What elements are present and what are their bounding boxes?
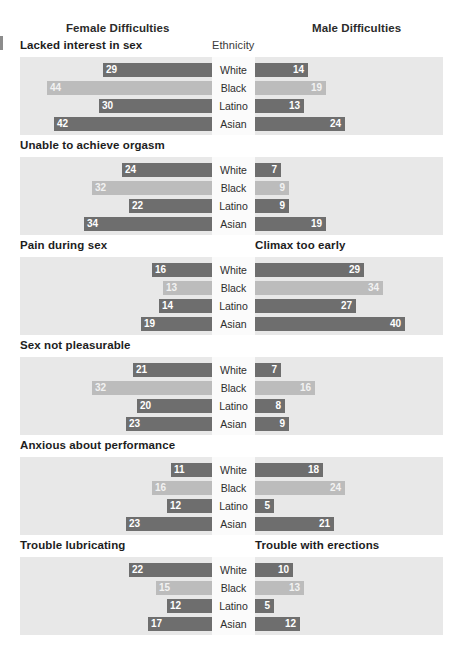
ethnicity-label-black: Black xyxy=(212,181,255,195)
chart-page: Female Difficulties Male Difficulties La… xyxy=(0,0,466,653)
ethnicity-label-black: Black xyxy=(212,81,255,95)
ethnicity-label-latino: Latino xyxy=(212,499,255,513)
bar-value-label: 13 xyxy=(289,99,300,113)
ethnicity-row: White xyxy=(212,563,255,577)
ethnicity-row: Black xyxy=(212,581,255,595)
ethnicity-row: Black xyxy=(212,281,255,295)
ethnicity-row: Asian xyxy=(212,117,255,131)
bar-female: 30 xyxy=(99,99,212,113)
ethnicity-label-asian: Asian xyxy=(212,217,255,231)
ethnicity-row: White xyxy=(212,363,255,377)
bar-female: 23 xyxy=(126,517,212,531)
male-panel: 79919 xyxy=(255,157,443,235)
bar-female: 29 xyxy=(103,63,212,77)
bar-male: 34 xyxy=(255,281,383,295)
male-bar-row: 9 xyxy=(255,181,443,195)
bar-value-label: 22 xyxy=(132,199,143,213)
ethnicity-row: Latino xyxy=(212,199,255,213)
bar-female: 44 xyxy=(47,81,212,95)
ethnicity-row: Latino xyxy=(212,99,255,113)
ethnicity-label-panel: WhiteBlackLatinoAsian xyxy=(212,257,255,335)
bar-value-label: 24 xyxy=(330,117,341,131)
bar-male: 19 xyxy=(255,81,326,95)
ethnicity-row: Black xyxy=(212,381,255,395)
ethnicity-label-asian: Asian xyxy=(212,117,255,131)
male-section-title: Climax too early xyxy=(255,239,345,251)
female-section-title: Sex not pleasurable xyxy=(20,339,131,351)
ethnicity-label-asian: Asian xyxy=(212,517,255,531)
section-titles: Trouble lubricatingTrouble with erection… xyxy=(0,539,466,556)
bar-female: 32 xyxy=(92,381,212,395)
ethnicity-label-latino: Latino xyxy=(212,199,255,213)
male-bar-row: 24 xyxy=(255,481,443,495)
chart-section: Unable to achieve orgasm24322234WhiteBla… xyxy=(0,139,466,239)
bar-female: 34 xyxy=(84,217,212,231)
male-panel: 71689 xyxy=(255,357,443,435)
bar-value-label: 21 xyxy=(319,517,330,531)
female-bar-row: 16 xyxy=(20,481,212,495)
bar-value-label: 44 xyxy=(50,81,61,95)
bar-value-label: 23 xyxy=(129,417,140,431)
bar-value-label: 19 xyxy=(144,317,155,331)
chart-section: Trouble lubricatingTrouble with erection… xyxy=(0,539,466,639)
ethnicity-label-latino: Latino xyxy=(212,99,255,113)
ethnicity-label-latino: Latino xyxy=(212,299,255,313)
male-bar-row: 19 xyxy=(255,81,443,95)
male-column-title: Male Difficulties xyxy=(312,22,401,34)
ethnicity-row: White xyxy=(212,63,255,77)
ethnicity-row: Black xyxy=(212,481,255,495)
bar-value-label: 24 xyxy=(330,481,341,495)
female-bar-row: 23 xyxy=(20,417,212,431)
male-bar-row: 5 xyxy=(255,499,443,513)
female-bar-row: 20 xyxy=(20,399,212,413)
bar-male: 40 xyxy=(255,317,405,331)
male-bar-row: 9 xyxy=(255,417,443,431)
bar-female: 14 xyxy=(159,299,212,313)
bar-value-label: 19 xyxy=(311,81,322,95)
bar-value-label: 23 xyxy=(129,517,140,531)
ethnicity-label-white: White xyxy=(212,263,255,277)
male-bar-row: 16 xyxy=(255,381,443,395)
bar-male: 13 xyxy=(255,99,304,113)
female-panel: 29443042 xyxy=(20,57,212,135)
male-bar-row: 5 xyxy=(255,599,443,613)
bar-male: 21 xyxy=(255,517,334,531)
ethnicity-label-latino: Latino xyxy=(212,399,255,413)
ethnicity-label-white: White xyxy=(212,463,255,477)
bar-value-label: 16 xyxy=(300,381,311,395)
bar-male: 13 xyxy=(255,581,304,595)
female-bar-row: 24 xyxy=(20,163,212,177)
bar-value-label: 13 xyxy=(289,581,300,595)
ethnicity-label-panel: WhiteBlackLatinoAsian xyxy=(212,557,255,635)
chart-section: Sex not pleasurable21322023WhiteBlackLat… xyxy=(0,339,466,439)
bar-value-label: 24 xyxy=(125,163,136,177)
female-bar-row: 16 xyxy=(20,263,212,277)
ethnicity-label-black: Black xyxy=(212,481,255,495)
bar-female: 20 xyxy=(137,399,212,413)
bar-value-label: 5 xyxy=(264,499,270,513)
male-bar-row: 19 xyxy=(255,217,443,231)
female-bar-row: 22 xyxy=(20,563,212,577)
bar-value-label: 13 xyxy=(166,281,177,295)
female-bar-row: 12 xyxy=(20,599,212,613)
bar-value-label: 15 xyxy=(159,581,170,595)
male-bar-row: 9 xyxy=(255,199,443,213)
bar-value-label: 18 xyxy=(308,463,319,477)
bar-male: 5 xyxy=(255,499,274,513)
female-section-title: Pain during sex xyxy=(20,239,107,251)
bar-male: 27 xyxy=(255,299,356,313)
female-bar-row: 42 xyxy=(20,117,212,131)
female-bar-row: 12 xyxy=(20,499,212,513)
section-titles: Sex not pleasurable xyxy=(0,339,466,356)
bar-female: 12 xyxy=(167,599,212,613)
ethnicity-row: Latino xyxy=(212,399,255,413)
bar-female: 32 xyxy=(92,181,212,195)
ethnicity-row: Latino xyxy=(212,499,255,513)
bar-value-label: 17 xyxy=(151,617,162,631)
bar-female: 22 xyxy=(129,563,212,577)
bar-value-label: 30 xyxy=(102,99,113,113)
ethnicity-label-latino: Latino xyxy=(212,599,255,613)
section-titles: Lacked interest in sexEthnicity xyxy=(0,39,466,56)
female-section-title: Anxious about performance xyxy=(20,439,175,451)
ethnicity-label-white: White xyxy=(212,363,255,377)
